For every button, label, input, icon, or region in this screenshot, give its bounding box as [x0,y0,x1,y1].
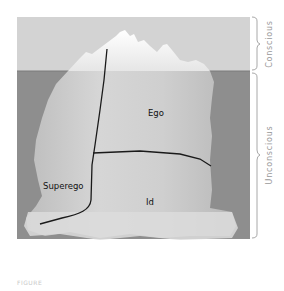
label-superego: Superego [43,181,84,191]
unconscious-brace [252,73,260,238]
label-ego: Ego [148,108,164,118]
label-unconscious: Unconscious [265,125,274,184]
iceberg-diagram: Ego Superego Id Conscious Unconscious [0,0,284,291]
label-conscious: Conscious [265,20,274,68]
figure-caption: FIGURE [17,279,42,286]
label-id: Id [146,197,154,207]
conscious-brace [252,17,260,70]
